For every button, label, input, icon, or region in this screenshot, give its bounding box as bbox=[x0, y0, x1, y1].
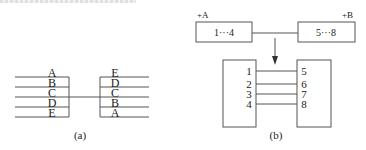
terminal-number: 5 bbox=[301, 65, 307, 77]
figure-a bbox=[15, 77, 149, 117]
diagram-canvas: A B C D E E D C B A (a) +A +B 1···4 5···… bbox=[0, 0, 366, 150]
right-terminal-numbers: 5 6 7 8 bbox=[301, 65, 307, 110]
caption-b: (b) bbox=[270, 129, 283, 142]
stack-label: A bbox=[111, 106, 120, 120]
block-a-label: 1···4 bbox=[214, 27, 234, 38]
caption-a: (a) bbox=[74, 129, 87, 142]
left-stack-labels: A B C D E bbox=[48, 66, 57, 120]
terminal-number: 4 bbox=[246, 98, 252, 110]
stack-label: E bbox=[48, 106, 55, 120]
right-stack-labels: E D C B A bbox=[111, 66, 120, 120]
block-b-tag: +B bbox=[342, 10, 353, 20]
terminal-number: 8 bbox=[301, 98, 307, 110]
block-a-tag: +A bbox=[197, 10, 209, 20]
block-b-label: 5···8 bbox=[316, 27, 336, 38]
terminal-number: 1 bbox=[246, 65, 252, 77]
left-terminal-numbers: 1 2 3 4 bbox=[246, 65, 252, 110]
arrow-down-icon bbox=[272, 56, 278, 65]
